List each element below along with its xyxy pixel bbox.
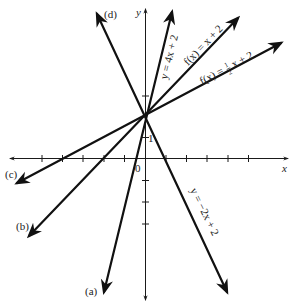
svg-text:f(x) =: f(x) = bbox=[197, 64, 226, 87]
label-b: (b) bbox=[16, 220, 29, 233]
svg-text:x + 2: x + 2 bbox=[229, 49, 255, 70]
label-a: (a) bbox=[85, 285, 98, 298]
origin-label: 0 bbox=[135, 162, 141, 174]
equation-x-plus-2: f(x) = x + 2 bbox=[181, 22, 226, 68]
line-graph: y x 0 1 (a) (b) (c) (d) y = 4x + 2 f(x) … bbox=[0, 0, 297, 302]
y-axis-label: y bbox=[135, 6, 141, 18]
equation-half-x-plus-2: f(x) = 1 2 x + 2 bbox=[197, 49, 256, 91]
label-c: (c) bbox=[5, 168, 18, 181]
equation-neg-2x-plus-2: y = −2x + 2 bbox=[188, 186, 221, 238]
label-d: (d) bbox=[104, 8, 117, 21]
y-tick-label-1: 1 bbox=[148, 132, 154, 144]
x-axis-label: x bbox=[281, 162, 287, 174]
